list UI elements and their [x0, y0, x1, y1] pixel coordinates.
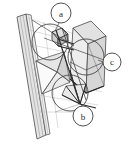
callout-c-label: c — [110, 57, 114, 67]
figure-root: a b c — [0, 0, 130, 144]
callout-b-label: b — [81, 112, 86, 122]
callout-a[interactable]: a — [51, 3, 71, 23]
geometry-diagram: a b c — [0, 0, 130, 144]
callout-b[interactable]: b — [73, 106, 93, 126]
callout-c[interactable]: c — [103, 53, 121, 71]
box-solid — [70, 21, 106, 93]
callout-a-label: a — [59, 9, 63, 19]
